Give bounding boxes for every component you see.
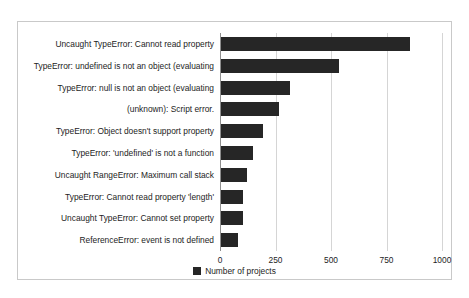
category-label: Uncaught TypeError: Cannot read property [14, 39, 214, 49]
bar [221, 190, 243, 204]
category-label: TypeError: undefined is not an object (e… [14, 61, 214, 71]
bar [221, 102, 279, 116]
bar-fill [221, 211, 243, 225]
chart-figure: Uncaught TypeError: Cannot read property… [17, 21, 452, 280]
category-label: Uncaught TypeError: Cannot set property [14, 213, 214, 223]
category-label: TypeError: null is not an object (evalua… [14, 83, 214, 93]
category-label: Uncaught RangeError: Maximum call stack [14, 170, 214, 180]
bar-fill [221, 81, 290, 95]
category-label: TypeError: 'undefined' is not a function [14, 148, 214, 158]
category-axis-labels: Uncaught TypeError: Cannot read property… [18, 33, 214, 251]
bar-fill [221, 168, 247, 182]
bar-fill [221, 233, 238, 247]
bar [221, 146, 253, 160]
category-label: (unknown): Script error. [14, 104, 214, 114]
bar-fill [221, 146, 253, 160]
value-axis-tick: 750 [380, 255, 394, 266]
category-label: TypeError: Object doesn't support proper… [14, 126, 214, 136]
gridline [442, 33, 443, 251]
bar [221, 81, 290, 95]
bar-fill [221, 37, 410, 51]
bar [221, 233, 238, 247]
bar [221, 168, 247, 182]
plot-area [220, 33, 442, 251]
chart-legend: Number of projects [18, 266, 451, 276]
value-axis-tick: 1000 [433, 255, 452, 266]
category-label: ReferenceError: event is not defined [14, 235, 214, 245]
bar [221, 211, 243, 225]
legend-label: Number of projects [205, 266, 276, 276]
bar [221, 59, 339, 73]
bar-fill [221, 124, 263, 138]
category-label: TypeError: Cannot read property 'length' [14, 192, 214, 202]
value-axis-tick: 250 [269, 255, 283, 266]
bar-fill [221, 190, 243, 204]
value-axis-tick: 0 [218, 255, 223, 266]
bar-fill [221, 102, 279, 116]
bar [221, 124, 263, 138]
bar-fill [221, 59, 339, 73]
legend-swatch-icon [193, 267, 201, 275]
bar [221, 37, 410, 51]
gridline [387, 33, 388, 251]
value-axis-tick: 500 [324, 255, 338, 266]
